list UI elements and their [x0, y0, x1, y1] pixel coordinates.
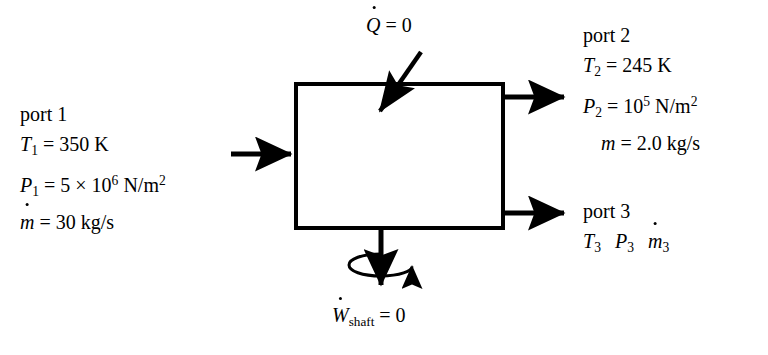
port-1-P-value: = 5 × 10 — [44, 174, 112, 196]
port-2-T-subscript: 2 — [594, 64, 601, 79]
port-1-T-subscript: 1 — [31, 143, 38, 158]
port-2-temperature: T2 = 245 K — [583, 50, 700, 87]
port-1-P-units-exponent: 2 — [159, 173, 166, 188]
port-2-label-group: port 2 T2 = 245 K P2 = 105 N/m2 m = 2.0 … — [583, 20, 700, 158]
work-Wdot-symbol: W — [332, 300, 349, 330]
thermodynamics-control-volume-figure: port 1 T1 = 350 K P1 = 5 × 106 N/m2 m = … — [0, 0, 768, 355]
heat-transfer-label: Q = 0 — [366, 10, 412, 40]
port-1-mass-flow: m = 30 kg/s — [20, 207, 166, 237]
port-1-P-units: N/m2 — [123, 174, 165, 196]
port-2-pressure: P2 = 105 N/m2 — [583, 87, 700, 128]
port-1-P-exponent: 6 — [112, 173, 119, 188]
work-value: = 0 — [379, 304, 405, 326]
port-2-P-units-text: N/m — [655, 95, 691, 117]
port-2-m-symbol: m — [601, 132, 615, 154]
port-2-mass-flow: m = 2.0 kg/s — [583, 128, 700, 158]
port-1-mdot-symbol: m — [20, 207, 34, 237]
port-1-T-symbol: T — [20, 133, 31, 155]
control-volume-box — [296, 84, 503, 228]
port-1-pressure: P1 = 5 × 106 N/m2 — [20, 166, 166, 207]
work-subscript: shaft — [349, 314, 375, 329]
port-3-T-symbol: T — [583, 230, 594, 252]
port-1-P-units-text: N/m — [123, 174, 159, 196]
port-2-P-symbol: P — [583, 95, 595, 117]
port-1-P-subscript: 1 — [32, 184, 39, 199]
port-2-m-value: = 2.0 kg/s — [620, 132, 700, 154]
port-1-title: port 1 — [20, 99, 166, 129]
port-1-label-group: port 1 T1 = 350 K P1 = 5 × 106 N/m2 m = … — [20, 99, 166, 237]
heat-value: = 0 — [385, 14, 411, 36]
shaft-work-label: Wshaft = 0 — [332, 300, 406, 337]
port-3-unknowns: T3P3m3 — [583, 226, 669, 263]
heat-transfer-equation: Q = 0 — [366, 10, 412, 40]
port-2-T-symbol: T — [583, 54, 594, 76]
port-2-P-units: N/m2 — [655, 95, 697, 117]
port-1-T-value: = 350 K — [43, 133, 109, 155]
port-2-P-exponent: 5 — [643, 94, 650, 109]
port-3-P-symbol: P — [615, 230, 627, 252]
heat-Qdot-symbol: Q — [366, 10, 380, 40]
port-1-mdot-value: = 30 kg/s — [39, 211, 114, 233]
port-2-T-value: = 245 K — [606, 54, 672, 76]
port-2-title: port 2 — [583, 20, 700, 50]
shaft-work-equation: Wshaft = 0 — [332, 300, 406, 337]
port-2-P-subscript: 2 — [595, 105, 602, 120]
port-1-P-symbol: P — [20, 174, 32, 196]
port-3-mdot-symbol: m — [648, 226, 662, 256]
port-1-temperature: T1 = 350 K — [20, 129, 166, 166]
port-3-mdot-subscript: 3 — [662, 240, 669, 255]
port-2-P-units-exponent: 2 — [691, 94, 698, 109]
port-3-label-group: port 3 T3P3m3 — [583, 196, 669, 263]
port-3-T-subscript: 3 — [594, 240, 601, 255]
port-3-P-subscript: 3 — [627, 240, 634, 255]
port-2-P-value: = 10 — [607, 95, 643, 117]
